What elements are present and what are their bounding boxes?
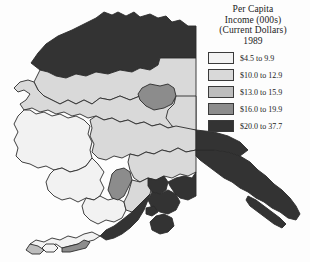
legend-item: $20.0 to 37.7 <box>208 119 308 133</box>
map-area-wade-hampton <box>14 110 92 172</box>
legend-item-label: $16.0 to 19.9 <box>240 105 282 114</box>
map-area-dillingham <box>82 196 126 224</box>
legend-item-label: $13.0 to 15.9 <box>240 88 282 97</box>
legend-item: $10.0 to 12.9 <box>208 68 308 82</box>
legend-swatch <box>208 103 234 115</box>
legend-title-line-2: Income (000s) <box>198 15 308 26</box>
legend-swatch <box>208 120 234 132</box>
legend-item: $13.0 to 15.9 <box>208 85 308 99</box>
legend-item-label: $10.0 to 12.9 <box>240 71 282 80</box>
legend-item-label: $4.5 to 9.9 <box>240 54 274 63</box>
legend-title-line-1: Per Capita <box>198 4 308 15</box>
legend-items: $4.5 to 9.9 $10.0 to 12.9 $13.0 to 15.9 … <box>198 51 308 133</box>
legend-item-label: $20.0 to 37.7 <box>240 122 282 131</box>
legend: Per Capita Income (000s) (Current Dollar… <box>198 4 308 136</box>
legend-item: $16.0 to 19.9 <box>208 102 308 116</box>
map-area-kodiak-island <box>150 214 174 234</box>
legend-swatch <box>208 86 234 98</box>
map-area-aleutian-islet-2 <box>42 244 58 252</box>
legend-title-line-3: (Current Dollars) <box>198 25 308 36</box>
legend-title-line-4: 1989 <box>198 36 308 47</box>
map-area-southeast-panhandle <box>196 150 300 220</box>
legend-swatch <box>208 52 234 64</box>
legend-swatch <box>208 69 234 81</box>
choropleth-map-figure: Per Capita Income (000s) (Current Dollar… <box>0 0 310 262</box>
legend-title: Per Capita Income (000s) (Current Dollar… <box>198 4 308 46</box>
legend-item: $4.5 to 9.9 <box>208 51 308 65</box>
